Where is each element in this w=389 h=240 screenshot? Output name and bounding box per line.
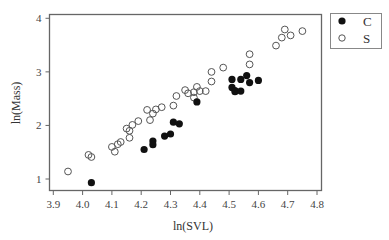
series-c-points — [88, 72, 262, 186]
open-circle-point — [126, 134, 133, 141]
open-circle-point — [208, 69, 215, 76]
open-circle-point — [158, 104, 165, 111]
x-tick-label: 3.9 — [46, 198, 60, 210]
x-tick-label: 4.3 — [164, 198, 178, 210]
y-axis-ticks: 1234 — [36, 12, 50, 185]
open-circle-point — [287, 32, 294, 39]
open-circle-point — [299, 28, 306, 35]
open-circle-point — [135, 118, 142, 125]
series-s-points — [65, 26, 306, 175]
y-tick-label: 4 — [36, 12, 42, 24]
open-circle-point — [170, 102, 177, 109]
filled-circle-point — [141, 146, 148, 153]
open-circle-point — [147, 117, 154, 124]
open-circle-point — [273, 42, 280, 49]
legend-open-circle-icon — [339, 35, 345, 41]
x-tick-label: 4.8 — [310, 198, 324, 210]
filled-circle-point — [237, 88, 244, 95]
filled-circle-point — [88, 179, 95, 186]
x-axis-ticks: 3.94.04.14.24.34.44.54.64.74.8 — [46, 191, 324, 210]
filled-circle-point — [149, 141, 156, 148]
y-tick-label: 2 — [36, 119, 42, 131]
open-circle-point — [220, 64, 227, 71]
legend-label-s: S — [363, 31, 370, 46]
filled-circle-point — [243, 72, 250, 79]
x-tick-label: 4.0 — [76, 198, 90, 210]
x-tick-label: 4.2 — [134, 198, 148, 210]
x-tick-label: 4.5 — [222, 198, 236, 210]
open-circle-point — [281, 26, 288, 33]
x-tick-label: 4.7 — [281, 198, 295, 210]
legend: C S — [331, 14, 382, 49]
open-circle-point — [208, 78, 215, 85]
open-circle-point — [246, 51, 253, 58]
filled-circle-point — [255, 77, 262, 84]
x-axis-label: ln(SVL) — [173, 219, 213, 233]
filled-circle-point — [237, 76, 244, 83]
filled-circle-point — [176, 120, 183, 127]
scatter-chart: 3.94.04.14.24.34.44.54.64.74.8 1234 ln(S… — [0, 0, 389, 240]
legend-label-c: C — [363, 14, 372, 29]
legend-box — [331, 14, 382, 49]
y-tick-label: 1 — [36, 173, 42, 185]
x-tick-label: 4.4 — [193, 198, 207, 210]
y-tick-label: 3 — [36, 66, 42, 78]
filled-circle-point — [193, 98, 200, 105]
filled-circle-point — [228, 76, 235, 83]
open-circle-point — [246, 61, 253, 68]
y-axis-label: ln(Mass) — [9, 82, 23, 125]
filled-circle-point — [246, 79, 253, 86]
x-tick-label: 4.1 — [105, 198, 119, 210]
x-tick-label: 4.6 — [252, 198, 266, 210]
open-circle-point — [173, 93, 180, 100]
open-circle-point — [65, 168, 72, 175]
open-circle-point — [278, 34, 285, 41]
filled-circle-point — [167, 130, 174, 137]
legend-filled-circle-icon — [338, 17, 345, 24]
